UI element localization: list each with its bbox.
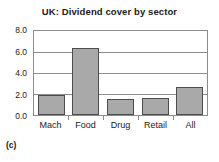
x-axis-tick-labels: Mach Food Drug Retail All	[33, 120, 208, 130]
bar-cell-mach	[34, 31, 69, 115]
bar-cell-drug	[103, 31, 138, 115]
y-tick-label: 6.0	[15, 47, 27, 57]
y-tick-label: 0.0	[15, 111, 27, 121]
bar-food	[72, 48, 99, 115]
x-tick-label-retail: Retail	[138, 120, 173, 130]
y-tick-label: 2.0	[15, 90, 27, 100]
chart-title: UK: Dividend cover by sector	[0, 6, 219, 17]
bar-drug	[107, 99, 134, 115]
bar-series	[34, 31, 207, 115]
y-tick-label: 4.0	[15, 68, 27, 78]
y-axis-tick-labels: 8.0 6.0 4.0 2.0 0.0	[0, 30, 31, 116]
bar-all	[176, 87, 203, 115]
bar-cell-retail	[138, 31, 173, 115]
bar-mach	[38, 95, 65, 115]
bar-cell-food	[69, 31, 104, 115]
plot-area	[33, 30, 208, 116]
x-tick-label-food: Food	[68, 120, 103, 130]
bar-retail	[142, 98, 169, 115]
x-tick-label-all: All	[173, 120, 208, 130]
x-tick-label-drug: Drug	[103, 120, 138, 130]
x-tick-label-mach: Mach	[33, 120, 68, 130]
figure-panel: UK: Dividend cover by sector 8.0 6.0 4.0…	[0, 0, 219, 162]
bar-cell-all	[172, 31, 207, 115]
y-tick-label: 8.0	[15, 25, 27, 35]
figure-caption-label: (c)	[6, 140, 16, 150]
